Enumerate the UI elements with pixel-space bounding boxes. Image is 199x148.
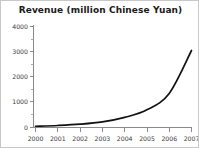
x-tick-label-2000: 2000 — [28, 135, 44, 142]
x-tick-label-2002: 2002 — [72, 135, 88, 142]
chart-plot-area: 4000 3000 2000 1000 0 2000 2001 2002 200… — [1, 1, 199, 148]
x-tick-label-2006: 2006 — [161, 135, 177, 142]
y-tick-label-1000: 1000 — [12, 98, 28, 105]
y-tick-label-3000: 3000 — [12, 48, 28, 55]
y-axis-tick-labels: 4000 3000 2000 1000 0 — [12, 23, 28, 131]
y-tick-label-2000: 2000 — [12, 73, 28, 80]
revenue-chart-card: Revenue (million Chinese Yuan) 4000 3000… — [0, 0, 199, 148]
x-axis-tick-labels: 2000 2001 2002 2003 2004 2005 2006 2007 — [28, 135, 199, 142]
x-tick-label-2005: 2005 — [139, 135, 155, 142]
revenue-line-series — [36, 50, 192, 126]
x-tick-label-2007: 2007 — [184, 135, 199, 142]
y-tick-label-4000: 4000 — [12, 23, 28, 30]
x-tick-label-2003: 2003 — [95, 135, 111, 142]
x-tick-label-2004: 2004 — [117, 135, 133, 142]
y-tick-label-0: 0 — [24, 124, 28, 131]
x-tick-label-2001: 2001 — [50, 135, 66, 142]
y-axis — [30, 25, 34, 128]
x-axis — [34, 128, 193, 133]
